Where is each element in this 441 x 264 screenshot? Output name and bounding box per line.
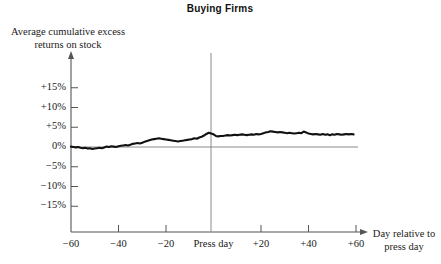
y-tick-label: +5% [22, 120, 66, 131]
x-axis-arrow-icon [360, 229, 368, 235]
plot-area [0, 0, 441, 264]
y-tick-label: −10% [22, 180, 66, 191]
x-tick-label: +60 [328, 238, 384, 249]
y-tick-label: −15% [22, 199, 66, 210]
data-series-line [71, 131, 354, 149]
chart-figure: Buying Firms Average cumulative excess r… [0, 0, 441, 264]
y-tick-label: 0% [22, 140, 66, 151]
y-tick-label: +10% [22, 101, 66, 112]
x-ticks-group [119, 225, 357, 232]
y-tick-label: +15% [22, 81, 66, 92]
axes-group [68, 51, 368, 235]
y-tick-label: −5% [22, 160, 66, 171]
y-axis-arrow-icon [68, 51, 74, 59]
